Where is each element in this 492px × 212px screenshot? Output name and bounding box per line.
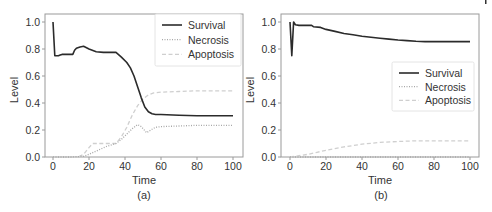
legend-label-survival: Survival [188,19,225,31]
y-tick-label: 0.6 [25,70,40,82]
x-tick-label: 60 [155,160,167,172]
figure: 0.00.20.40.60.81.0020406080100TimeLevel(… [0,0,492,212]
legend: SurvivalNecrosisApoptosis [155,14,241,66]
y-tick-label: 0.0 [261,151,276,163]
legend-label-apoptosis: Apoptosis [188,48,234,60]
y-tick-label: 0.6 [261,70,276,82]
x-tick-label: 60 [392,160,404,172]
panel-label: (a) [137,189,150,201]
y-tick-label: 1.0 [261,16,276,28]
legend-label-necrosis: Necrosis [425,81,466,93]
legend-label-survival: Survival [425,67,462,79]
panel-b-chart: 0.00.20.40.60.81.0020406080100TimeLevel(… [244,14,479,201]
y-axis-label: Level [244,77,256,103]
x-tick-label: 0 [50,160,56,172]
y-axis-label: Level [8,77,20,103]
panel-a-chart: 0.00.20.40.60.81.0020406080100TimeLevel(… [8,14,243,201]
x-tick-label: 100 [224,160,242,172]
series-line-necrosis [53,125,233,157]
y-tick-label: 0.0 [25,151,40,163]
x-tick-label: 40 [119,160,131,172]
series-line-survival [290,22,470,56]
panel-label: (b) [374,189,387,201]
x-tick-label: 80 [428,160,440,172]
x-tick-label: 0 [287,160,293,172]
x-tick-label: 40 [356,160,368,172]
x-tick-label: 100 [461,160,479,172]
y-tick-label: 0.4 [25,97,40,109]
legend: SurvivalNecrosisApoptosis [392,62,474,111]
x-axis-label: Time [368,174,392,186]
y-tick-label: 1.0 [25,16,40,28]
series-line-apoptosis [290,141,470,157]
legend-label-apoptosis: Apoptosis [425,94,471,106]
x-axis-label: Time [132,174,156,186]
x-tick-label: 20 [320,160,332,172]
legend-label-necrosis: Necrosis [188,34,229,46]
y-tick-label: 0.2 [25,124,40,136]
y-tick-label: 0.2 [261,124,276,136]
x-tick-label: 20 [83,160,95,172]
edge-artifact [485,0,487,4]
x-tick-label: 80 [191,160,203,172]
y-tick-label: 0.4 [261,97,276,109]
y-tick-label: 0.8 [25,43,40,55]
y-tick-label: 0.8 [261,43,276,55]
